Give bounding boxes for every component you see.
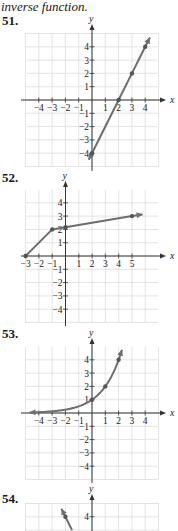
graph-54: y4 — [0, 0, 178, 531]
marked-point — [63, 515, 67, 519]
y-axis-arrow-icon — [90, 494, 95, 500]
y-axis-label: y — [88, 483, 94, 494]
y-tick-label: 4 — [84, 512, 89, 522]
